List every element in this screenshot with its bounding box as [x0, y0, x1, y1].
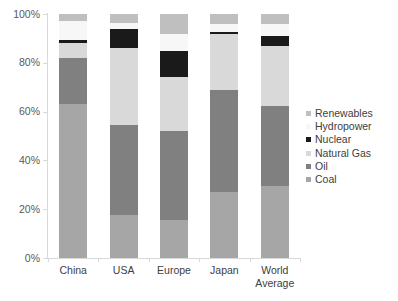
- legend-swatch-icon: [306, 124, 311, 129]
- bar-segment[interactable]: [210, 192, 238, 258]
- y-tick-mark: [43, 160, 47, 161]
- bar-segment[interactable]: [59, 40, 87, 44]
- bar-segment[interactable]: [210, 14, 238, 24]
- x-tick-mark: [250, 258, 251, 262]
- bar-segment[interactable]: [210, 24, 238, 32]
- y-tick-mark: [43, 258, 47, 259]
- legend-item[interactable]: Renewables: [306, 107, 373, 120]
- bar-stack: [210, 14, 238, 258]
- legend-swatch-icon: [306, 111, 311, 116]
- y-tick-mark: [43, 112, 47, 113]
- y-tick-label: 100%: [0, 9, 40, 20]
- bar-segment[interactable]: [261, 186, 289, 258]
- bar-segment[interactable]: [210, 32, 238, 34]
- legend-item[interactable]: Coal: [306, 173, 373, 186]
- bar-segment[interactable]: [110, 23, 138, 29]
- x-category-label-line: World: [236, 264, 314, 277]
- bar-stack: [160, 14, 188, 258]
- bar-segment[interactable]: [59, 14, 87, 21]
- bar-segment[interactable]: [160, 51, 188, 78]
- bar-segment[interactable]: [110, 29, 138, 49]
- y-tick-label: 80%: [0, 57, 40, 68]
- bar-stack: [261, 14, 289, 258]
- bar-segment[interactable]: [261, 36, 289, 46]
- bar-segment[interactable]: [110, 215, 138, 258]
- bar-segment[interactable]: [261, 46, 289, 106]
- bar-segment[interactable]: [160, 14, 188, 34]
- bar-segment[interactable]: [160, 131, 188, 220]
- x-tick-mark: [199, 258, 200, 262]
- y-tick-label: 20%: [0, 204, 40, 215]
- bar-segment[interactable]: [59, 58, 87, 104]
- legend-label: Oil: [315, 161, 328, 172]
- bar-segment[interactable]: [160, 220, 188, 258]
- legend-swatch-icon: [306, 177, 311, 182]
- y-tick-mark: [43, 63, 47, 64]
- bar-segment[interactable]: [261, 24, 289, 36]
- bar-segment[interactable]: [110, 48, 138, 125]
- legend-item[interactable]: Hydropower: [306, 120, 373, 133]
- y-tick-label: 40%: [0, 155, 40, 166]
- legend-label: Nuclear: [315, 134, 351, 145]
- bar-segment[interactable]: [160, 34, 188, 51]
- legend-swatch-icon: [306, 137, 311, 142]
- bar-segment[interactable]: [261, 106, 289, 187]
- x-tick-mark: [98, 258, 99, 262]
- y-tick-label: 60%: [0, 106, 40, 117]
- plot-area: [48, 14, 300, 258]
- legend-swatch-icon: [306, 164, 311, 169]
- x-tick-mark: [300, 258, 301, 262]
- bar-segment[interactable]: [160, 77, 188, 131]
- legend-label: Natural Gas: [315, 148, 371, 159]
- bar-segment[interactable]: [261, 14, 289, 24]
- bar-segment[interactable]: [110, 125, 138, 215]
- stacked-bar-chart: 100%80%60%40%20%0% ChinaUSAEuropeJapanWo…: [0, 0, 398, 301]
- bar-segment[interactable]: [59, 43, 87, 58]
- legend-item[interactable]: Oil: [306, 160, 373, 173]
- x-category-label-line: Average: [236, 277, 314, 290]
- bar-segment[interactable]: [210, 90, 238, 192]
- bar-segment[interactable]: [59, 104, 87, 258]
- legend-item[interactable]: Natural Gas: [306, 147, 373, 160]
- legend-label: Hydropower: [315, 121, 372, 132]
- bar-segment[interactable]: [110, 14, 138, 23]
- legend-label: Renewables: [315, 108, 373, 119]
- legend-label: Coal: [315, 174, 337, 185]
- legend-item[interactable]: Nuclear: [306, 133, 373, 146]
- y-tick-mark: [43, 209, 47, 210]
- bar-stack: [110, 14, 138, 258]
- y-tick-label: 0%: [0, 253, 40, 264]
- y-tick-mark: [43, 14, 47, 15]
- bar-stack: [59, 14, 87, 258]
- bar-segment[interactable]: [59, 21, 87, 39]
- chart-legend: RenewablesHydropowerNuclearNatural GasOi…: [306, 107, 373, 186]
- legend-swatch-icon: [306, 151, 311, 156]
- x-axis-line: [47, 258, 300, 259]
- x-tick-mark: [48, 258, 49, 262]
- x-tick-mark: [149, 258, 150, 262]
- bar-segment[interactable]: [210, 34, 238, 90]
- x-category-label: WorldAverage: [236, 264, 314, 289]
